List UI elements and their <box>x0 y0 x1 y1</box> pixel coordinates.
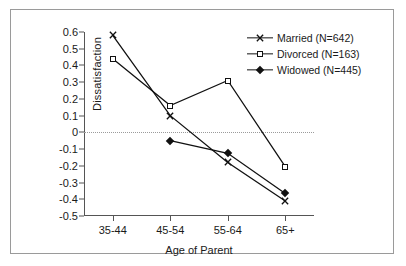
x-cross-marker <box>256 34 265 43</box>
open-square-marker <box>167 103 173 109</box>
x-tick-label: 65+ <box>276 224 295 236</box>
y-tick-label: -0.5 <box>44 210 78 222</box>
open-square-marker <box>282 164 288 170</box>
y-tick-label: 0.3 <box>44 76 78 88</box>
x-tick-mark <box>228 216 229 221</box>
filled-diamond-marker <box>256 66 264 74</box>
y-tick-label: -0.3 <box>44 177 78 189</box>
y-tick-label: 0.5 <box>44 43 78 55</box>
y-tick-label: 0.2 <box>44 93 78 105</box>
x-axis-title: Age of Parent <box>84 244 314 256</box>
y-tick-label: 0 <box>44 126 78 138</box>
x-cross-marker <box>108 31 117 40</box>
x-cross-marker <box>166 111 175 120</box>
open-square-marker <box>225 78 231 84</box>
chart-legend: Married (N=642)Divorced (N=163)Widowed (… <box>247 30 361 78</box>
legend-key <box>247 32 273 44</box>
open-square-marker <box>110 56 116 62</box>
legend-label: Widowed (N=445) <box>277 62 361 78</box>
y-tick-label: -0.1 <box>44 143 78 155</box>
x-tick-label: 35-44 <box>99 224 127 236</box>
x-tick-label: 45-54 <box>156 224 184 236</box>
y-tick-label: -0.2 <box>44 160 78 172</box>
chart-frame: Dissatisfaction Age of Parent 0.60.50.40… <box>10 9 394 254</box>
y-tick-label: 0.4 <box>44 59 78 71</box>
legend-label: Married (N=642) <box>277 30 354 46</box>
y-tick-label: -0.4 <box>44 193 78 205</box>
legend-label: Divorced (N=163) <box>277 46 360 62</box>
x-cross-marker <box>281 196 290 205</box>
legend-key <box>247 48 273 60</box>
x-cross-marker <box>223 158 232 167</box>
legend-item: Divorced (N=163) <box>247 46 361 62</box>
x-tick-mark <box>113 216 114 221</box>
legend-key <box>247 64 273 76</box>
x-tick-label: 55-64 <box>214 224 242 236</box>
open-square-marker <box>257 51 263 57</box>
x-tick-mark <box>170 216 171 221</box>
y-tick-label: 0.6 <box>44 26 78 38</box>
legend-item: Widowed (N=445) <box>247 62 361 78</box>
y-tick-label: 0.1 <box>44 110 78 122</box>
legend-item: Married (N=642) <box>247 30 361 46</box>
x-tick-mark <box>285 216 286 221</box>
